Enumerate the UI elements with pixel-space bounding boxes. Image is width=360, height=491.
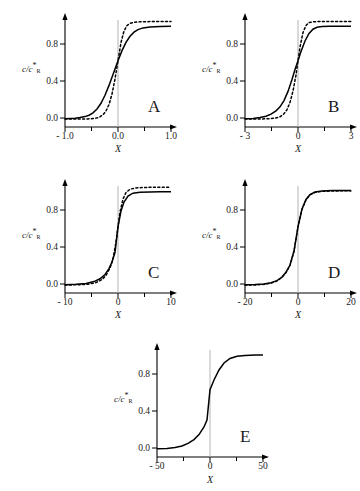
panel-b-letter: B [328, 98, 339, 115]
panel-c-xtick-0: - 10 [47, 298, 83, 308]
panel-a-y-axis-arrowhead [62, 13, 67, 20]
panel-d: c/c*R 0.0 0.4 0.8 [180, 166, 360, 326]
figure-multi-panel-sigmoid: c/c*R 0.0 0.4 0.8 [0, 0, 360, 491]
panel-c-xtick-1: 0 [100, 298, 136, 308]
panel-b-xtick-1: 0 [280, 132, 316, 142]
panel-a-letter: A [148, 98, 160, 115]
panel-c-y-ticks [60, 210, 65, 284]
panel-a: c/c*R 0.0 0.4 0.8 [0, 0, 180, 160]
panel-b-y-axis-arrowhead [242, 13, 247, 20]
panel-c-x-axis-label: X [104, 310, 132, 320]
panel-e-xtick-1: 0 [192, 462, 228, 472]
panel-b: c/c*R 0.0 0.4 0.8 [180, 0, 360, 160]
panel-c-letter: C [148, 264, 159, 281]
panel-e-y-axis-arrowhead [154, 343, 159, 350]
panel-a-y-ticks [60, 44, 65, 118]
panel-b-y-ticks [240, 44, 245, 118]
panel-e-x-axis-label: X [196, 475, 224, 485]
panel-e-xtick-0: - 50 [139, 462, 175, 472]
panel-e-letter: E [240, 428, 250, 445]
panel-d-xtick-0: - 20 [227, 298, 263, 308]
panel-b-xtick-0: - 3 [227, 132, 263, 142]
panel-d-letter: D [328, 264, 340, 281]
panel-d-x-axis-label: X [284, 310, 312, 320]
panel-d-xtick-2: 20 [333, 298, 360, 308]
panel-e-xtick-2: 50 [245, 462, 281, 472]
panel-b-xtick-2: 3 [333, 132, 360, 142]
panel-a-xtick-1: 0.0 [100, 132, 136, 142]
panel-d-xtick-1: 0 [280, 298, 316, 308]
panel-a-xtick-0: - 1.0 [47, 132, 83, 142]
panel-c: c/c*R 0.0 0.4 0.8 [0, 166, 180, 326]
panel-b-x-axis-label: X [284, 144, 312, 154]
panel-e: c/c*R 0.0 0.4 0.8 E [90, 330, 280, 491]
panel-e-y-ticks [152, 374, 157, 448]
panel-a-x-axis-label: X [104, 144, 132, 154]
panel-d-y-axis-arrowhead [242, 179, 247, 186]
panel-c-y-axis-arrowhead [62, 179, 67, 186]
panel-d-y-ticks [240, 210, 245, 284]
